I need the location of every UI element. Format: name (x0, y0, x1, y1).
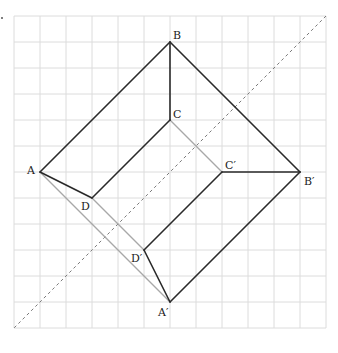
label-A-prime: A′ (157, 306, 169, 319)
label-A: A (26, 164, 36, 177)
label-B-prime: B′ (304, 175, 315, 188)
diagram-canvas: A B B′ A′ C C′ D D′ (0, 0, 338, 353)
label-D-prime: D′ (131, 252, 143, 265)
edge-A-B (40, 42, 170, 172)
edge-C_prime-D_prime (144, 172, 222, 250)
hidden-edges (40, 120, 222, 302)
corner-dot (1, 17, 3, 19)
label-B: B (173, 29, 181, 42)
edge-D-C (92, 120, 170, 198)
edge-B_prime-A_prime (170, 172, 300, 302)
label-D: D (81, 200, 90, 213)
label-C: C (173, 108, 181, 121)
label-C-prime: C′ (225, 159, 236, 172)
